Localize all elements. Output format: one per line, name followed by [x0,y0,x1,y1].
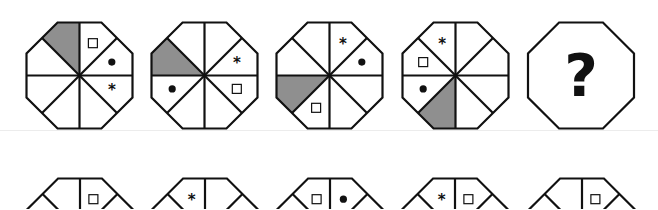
dot-symbol [340,196,347,203]
answer-option-2[interactable]: * [152,179,258,210]
question-figure-1: * [27,23,133,129]
shaded-sector [418,76,455,129]
dot-symbol [108,59,115,66]
shaded-sector [42,23,79,76]
shaded-sector [152,38,205,75]
question-figure-5: ? [528,23,634,129]
square-symbol [232,84,241,93]
puzzle-canvas: ****?** [0,0,658,209]
star-symbol: * [233,54,241,72]
square-symbol [464,195,473,204]
star-symbol: * [339,35,347,53]
question-figure-3: * [277,23,383,129]
question-figure-2: * [152,23,258,129]
question-mark: ? [564,42,598,110]
dot-symbol [169,85,176,92]
answer-option-4[interactable]: * [402,179,508,210]
star-symbol: * [438,191,446,209]
question-figure-4: * [403,23,509,129]
star-symbol: * [438,35,446,53]
star-symbol: * [108,81,116,99]
square-symbol [89,195,98,204]
dot-symbol [358,59,365,66]
answer-option-5[interactable] [529,179,635,210]
shaded-sector [277,76,330,113]
square-symbol [312,103,321,112]
answer-option-1[interactable] [27,179,133,210]
answer-option-3[interactable] [277,179,383,210]
star-symbol: * [188,191,196,209]
square-symbol [419,58,428,67]
square-symbol [88,39,97,48]
dot-symbol [420,85,427,92]
square-symbol [312,195,321,204]
square-symbol [591,195,600,204]
